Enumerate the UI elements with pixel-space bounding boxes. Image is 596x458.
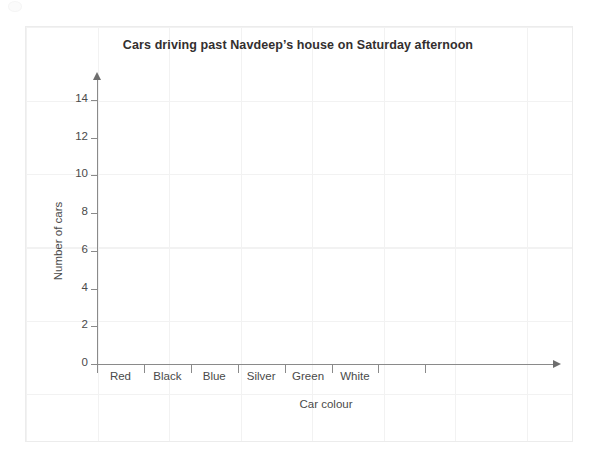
y-axis-tick-label: 2 <box>60 318 88 330</box>
x-axis-category-label: White <box>315 370 395 382</box>
y-axis-tick <box>91 251 98 252</box>
arrow-up-icon <box>93 72 101 80</box>
bar-chart: Cars driving past Navdeep’s house on Sat… <box>0 0 596 458</box>
arrow-right-icon <box>553 360 561 368</box>
y-axis-tick <box>91 213 98 214</box>
chart-title: Cars driving past Navdeep’s house on Sat… <box>0 38 596 52</box>
y-axis-tick <box>91 289 98 290</box>
y-axis-title: Number of cars <box>52 171 64 311</box>
y-axis-tick-label: 12 <box>60 130 88 142</box>
x-axis-line <box>97 364 555 365</box>
worksheet-page: Cars driving past Navdeep’s house on Sat… <box>0 0 596 458</box>
x-axis-title: Car colour <box>97 398 555 410</box>
y-axis-tick-label: 14 <box>60 92 88 104</box>
y-axis-tick-label: 6 <box>60 243 88 255</box>
y-axis-tick <box>91 175 98 176</box>
y-axis-tick-label: 4 <box>60 281 88 293</box>
x-axis-tick <box>425 365 426 373</box>
y-axis-tick-label: 0 <box>60 356 88 368</box>
y-axis-tick <box>91 138 98 139</box>
y-axis-tick-label: 10 <box>60 167 88 179</box>
y-axis-tick-label: 8 <box>60 205 88 217</box>
y-axis-tick <box>91 100 98 101</box>
y-axis-tick <box>91 326 98 327</box>
y-axis-line <box>97 78 98 365</box>
